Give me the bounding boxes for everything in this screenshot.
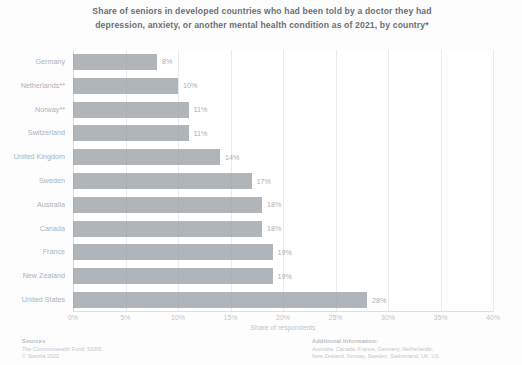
bar-united-states[interactable] (73, 292, 367, 308)
bar-value-label: 17% (257, 177, 271, 186)
footer-additional-line-1: Australia, Canada, France, Germany, Neth… (312, 346, 492, 353)
bar-france[interactable] (73, 244, 273, 260)
x-tick-30%: 30% (381, 314, 395, 321)
bar-value-label: 8% (162, 57, 172, 66)
bar-value-label: 14% (225, 153, 239, 162)
y-category-sweden: Sweden (39, 173, 65, 189)
y-category-australia: Australia (37, 197, 65, 213)
chart-title-line-1: Share of seniors in developed countries … (38, 4, 486, 18)
plot-area: 8%10%11%11%14%17%18%18%19%19%28% (73, 50, 493, 312)
bar-germany[interactable] (73, 54, 157, 70)
bar-row[interactable]: 28% (73, 292, 386, 308)
bar-netherlands[interactable] (73, 78, 178, 94)
bar-value-label: 11% (194, 129, 208, 138)
bar-row[interactable]: 11% (73, 102, 207, 118)
x-axis-line (73, 311, 493, 312)
bar-value-label: 11% (194, 105, 208, 114)
footer-additional-heading: Additional Information: (312, 338, 492, 344)
bar-value-label: 19% (278, 248, 292, 257)
bar-value-label: 18% (267, 224, 281, 233)
chart-title: Share of seniors in developed countries … (38, 4, 486, 32)
x-tick-10%: 10% (171, 314, 185, 321)
y-axis-category-labels: GermanyNetherlands**Norway**SwitzerlandU… (0, 50, 69, 312)
bar-canada[interactable] (73, 221, 262, 237)
footer-additional-line-2: New Zealand, Norway, Sweden, Switzerland… (312, 353, 492, 360)
y-category-france: France (43, 244, 65, 260)
bar-series: 8%10%11%11%14%17%18%18%19%19%28% (73, 50, 493, 312)
y-category-united-kingdom: United Kingdom (14, 149, 65, 165)
bar-united-kingdom[interactable] (73, 149, 220, 165)
bar-row[interactable]: 18% (73, 221, 281, 237)
bar-sweden[interactable] (73, 173, 252, 189)
y-category-united-states: United States (22, 292, 65, 308)
bar-row[interactable]: 11% (73, 125, 207, 141)
y-category-germany: Germany (35, 54, 65, 70)
chart-title-line-2: depression, anxiety, or another mental h… (38, 18, 486, 32)
footer-sources-heading: Sources (22, 338, 202, 344)
bar-row[interactable]: 19% (73, 268, 292, 284)
bar-row[interactable]: 17% (73, 173, 271, 189)
bar-norway[interactable] (73, 102, 189, 118)
bar-value-label: 28% (372, 296, 386, 305)
y-category-netherlands: Netherlands** (21, 78, 65, 94)
chart-footer: Sources The Commonwealth Fund; SSRS © St… (22, 338, 500, 360)
x-tick-35%: 35% (433, 314, 447, 321)
bar-row[interactable]: 8% (73, 54, 172, 70)
bar-switzerland[interactable] (73, 125, 189, 141)
footer-sources-line-1: The Commonwealth Fund; SSRS (22, 346, 202, 353)
bar-row[interactable]: 14% (73, 149, 239, 165)
x-tick-25%: 25% (328, 314, 342, 321)
bar-row[interactable]: 10% (73, 78, 197, 94)
bar-australia[interactable] (73, 197, 262, 213)
footer-additional-information: Additional Information: Australia, Canad… (312, 338, 492, 360)
footer-sources-line-2: © Statista 2022 (22, 353, 202, 360)
y-category-new-zealand: New Zealand (23, 268, 65, 284)
bar-value-label: 10% (183, 81, 197, 90)
bar-new-zealand[interactable] (73, 268, 273, 284)
bar-value-label: 18% (267, 200, 281, 209)
x-tick-15%: 15% (223, 314, 237, 321)
bar-row[interactable]: 19% (73, 244, 292, 260)
y-category-norway: Norway** (35, 102, 65, 118)
x-tick-5%: 5% (120, 314, 130, 321)
x-tick-20%: 20% (276, 314, 290, 321)
x-axis-title: Share of respondents (73, 324, 493, 331)
bar-value-label: 19% (278, 272, 292, 281)
bar-row[interactable]: 18% (73, 197, 281, 213)
chart-sheet: Share of seniors in developed countries … (0, 0, 522, 365)
gridline-40% (493, 50, 494, 312)
y-category-switzerland: Switzerland (28, 125, 65, 141)
y-category-canada: Canada (40, 221, 65, 237)
footer-sources: Sources The Commonwealth Fund; SSRS © St… (22, 338, 202, 360)
x-tick-40%: 40% (486, 314, 500, 321)
x-tick-0%: 0% (68, 314, 78, 321)
